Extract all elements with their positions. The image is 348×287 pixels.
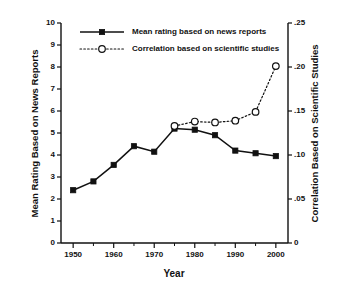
- data-point-marker-square: [273, 154, 278, 159]
- data-point-marker-square: [111, 162, 116, 167]
- axes-group: [57, 23, 292, 248]
- data-point-marker-square: [152, 149, 157, 154]
- data-point-marker-circle: [171, 123, 178, 130]
- series-line-scientific-studies: [175, 66, 276, 126]
- data-point-marker-circle: [99, 46, 106, 53]
- series-line-news-reports: [73, 129, 276, 191]
- data-point-marker-square: [212, 133, 217, 138]
- data-point-marker-circle: [252, 109, 259, 116]
- legend-marks-group: [80, 29, 124, 52]
- data-point-marker-circle: [191, 118, 198, 125]
- data-point-marker-square: [71, 188, 76, 193]
- data-point-marker-circle: [273, 63, 280, 70]
- data-series-group: [71, 63, 280, 193]
- data-point-marker-circle: [232, 117, 239, 124]
- data-point-marker-square: [253, 151, 258, 156]
- data-point-marker-square: [131, 144, 136, 149]
- data-point-marker-square: [99, 29, 104, 34]
- data-point-marker-square: [233, 148, 238, 153]
- data-point-marker-square: [91, 179, 96, 184]
- data-point-marker-square: [192, 127, 197, 132]
- chart-figure: Mean Rating Based on News Reports Correl…: [0, 0, 348, 287]
- plot-area: [0, 0, 348, 287]
- data-point-marker-circle: [212, 119, 219, 126]
